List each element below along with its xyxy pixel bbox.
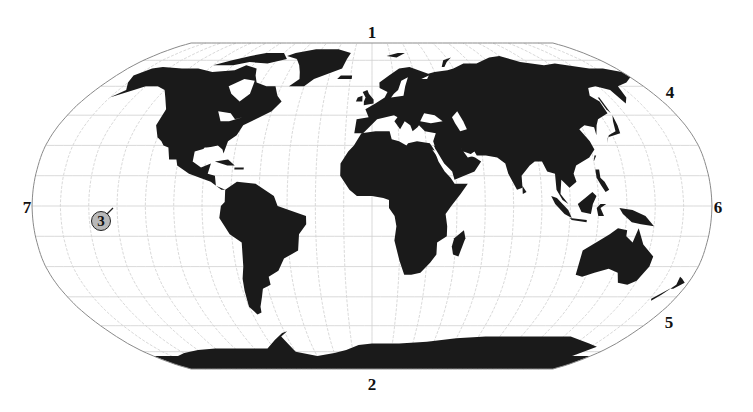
label-4: 4 xyxy=(666,84,675,101)
graticule xyxy=(32,43,712,369)
landmass-greenland xyxy=(287,49,351,86)
label-6: 6 xyxy=(714,199,723,216)
label-7: 7 xyxy=(23,199,32,216)
landmass-south-america xyxy=(219,182,306,315)
marker-label: 3 xyxy=(97,213,105,230)
landmass-canadian-arctic xyxy=(213,53,287,65)
label-1: 1 xyxy=(368,24,377,41)
landmasses xyxy=(110,49,685,369)
label-5: 5 xyxy=(665,314,674,331)
landmass-cuba xyxy=(215,160,235,166)
landmass-borneo xyxy=(578,192,597,214)
landmass-madagascar xyxy=(452,230,466,256)
landmass-new-guinea xyxy=(619,208,654,226)
landmass-java xyxy=(570,218,587,222)
landmass-sri-lanka xyxy=(522,186,526,194)
landmass-taiwan xyxy=(594,156,596,162)
location-marker-3[interactable]: 3 xyxy=(91,211,111,231)
landmass-ireland xyxy=(356,96,363,102)
landmass-hispaniola xyxy=(234,168,244,170)
landmass-antarctica xyxy=(154,331,597,369)
landmass-iceland xyxy=(337,75,352,79)
landmass-north-america xyxy=(110,65,282,190)
world-map xyxy=(0,0,753,412)
landmass-sumatra xyxy=(551,196,572,218)
label-2: 2 xyxy=(368,376,377,393)
